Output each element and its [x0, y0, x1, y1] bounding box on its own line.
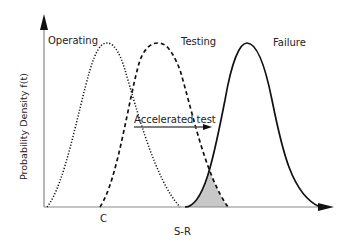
x-axis-arrow-icon: [318, 203, 334, 211]
failure-label: Failure: [273, 37, 306, 48]
testing-label: Testing: [180, 36, 216, 47]
c-marker-label: C: [100, 213, 107, 224]
y-axis-arrow-icon: [40, 14, 48, 30]
y-axis: [40, 14, 48, 207]
accelerated-test-label: Accelerated test: [134, 114, 216, 125]
operating-label: Operating: [48, 35, 98, 46]
operating-curve: [47, 43, 180, 207]
x-axis-label: S-R: [174, 226, 191, 237]
accelerated-test-diagram: Operating Testing Failure Accelerated te…: [0, 0, 347, 248]
y-axis-label: Probability Density f(t): [18, 73, 29, 180]
